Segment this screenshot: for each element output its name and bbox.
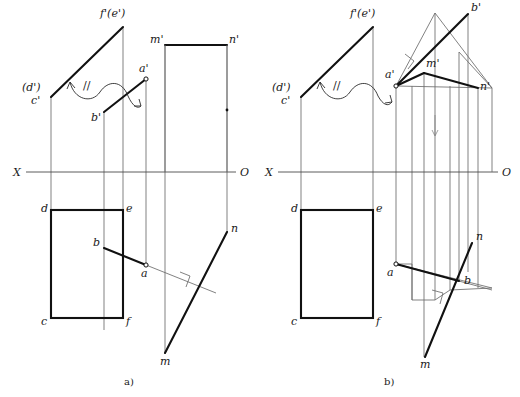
axis-label-x-b: X [264, 166, 274, 179]
axis-label-o-a: O [240, 166, 249, 179]
label-f-b: f [375, 315, 382, 328]
parallel-arrow-head-right-b [385, 95, 392, 103]
label-d-a: d [41, 202, 48, 215]
label-d-prime-b: (d') [272, 81, 291, 94]
drawing-canvas: f'(e') (d') c' a' b' m' n' d e c f b a n… [0, 0, 520, 397]
plane-cdef-top-panel-b [301, 210, 373, 318]
label-m-prime-a: m' [150, 33, 163, 46]
aux-top-short [450, 288, 492, 290]
label-a-a: a [141, 267, 148, 280]
parallel-symbol-a: // [83, 79, 91, 92]
label-a-prime-a: a' [139, 62, 149, 75]
line-ab-extension-panel-a [146, 265, 216, 293]
label-n-a: n [231, 222, 238, 235]
point-marker-a-prime-b [394, 84, 398, 88]
label-m-prime-b: m' [426, 57, 439, 70]
label-n-prime-b: n' [480, 80, 490, 93]
caption-panel-b: b) [384, 376, 394, 387]
line-mn-top-panel-a [165, 232, 227, 353]
technical-drawing-figure: f'(e') (d') c' a' b' m' n' d e c f b a n… [0, 0, 520, 397]
label-f-a: f [125, 315, 132, 328]
label-m-b: m [420, 358, 430, 371]
label-m-a: m [160, 355, 170, 368]
label-e-a: e [126, 202, 133, 215]
label-f-prime-e-prime-a: f'(e') [99, 7, 125, 20]
line-ab-top-panel-b [396, 264, 459, 281]
axis-label-o-b: O [502, 166, 511, 179]
label-c-a: c [41, 315, 47, 328]
label-c-prime-b: c' [281, 94, 290, 107]
label-a-b: a [387, 266, 394, 279]
caption-panel-a: a) [124, 376, 134, 387]
label-b-prime-a: b' [91, 111, 101, 124]
label-a-prime-b: a' [385, 68, 395, 81]
label-c-b: c [291, 315, 297, 328]
label-b-prime-b: b' [471, 1, 481, 14]
point-marker-a-prime [144, 77, 148, 81]
parallel-connector-curve-b [320, 82, 392, 105]
parallel-symbol-b: // [333, 79, 341, 92]
parallel-arrow-head-right [134, 99, 141, 106]
label-b-b: b [464, 274, 471, 287]
parallel-annotation-panel-a [67, 82, 141, 107]
panel-b: f'(e') (d') c' a' b' m' n' d e c f a b n… [264, 1, 511, 387]
label-f-prime-e-prime-b: f'(e') [349, 7, 375, 20]
label-d-prime-a: (d') [22, 81, 41, 94]
panel-a: f'(e') (d') c' a' b' m' n' d e c f b a n… [12, 7, 249, 387]
label-b-a: b [93, 236, 100, 249]
right-angle-glyph-top-b [432, 290, 443, 304]
aux-tri-right-side [435, 13, 492, 88]
line-mn-front-panel-b [424, 73, 478, 88]
line-ab-top-panel-a [104, 248, 146, 265]
point-marker-aux-panel-a [226, 109, 229, 112]
label-e-b: e [376, 202, 383, 215]
point-marker-a-b [394, 262, 398, 266]
parallel-connector-curve [70, 82, 141, 107]
rect-mn-front-panel-a [165, 45, 227, 172]
label-c-prime-a: c' [31, 94, 40, 107]
line-am-front-panel-b [396, 73, 424, 86]
projectors-panel-b [301, 13, 478, 357]
axis-label-x-a: X [12, 166, 22, 179]
rect-cdef-top-panel-a [51, 210, 123, 318]
label-n-prime-a: n' [229, 33, 239, 46]
parallel-annotation-panel-b [317, 82, 392, 105]
label-n-b: n [476, 230, 483, 243]
projectors-panel-a [51, 27, 227, 353]
plane-cdef-top [51, 210, 123, 318]
right-angle-mark-top-panel-b [432, 290, 443, 304]
label-d-b: d [291, 202, 298, 215]
direction-arrow-panel-b [432, 115, 438, 136]
